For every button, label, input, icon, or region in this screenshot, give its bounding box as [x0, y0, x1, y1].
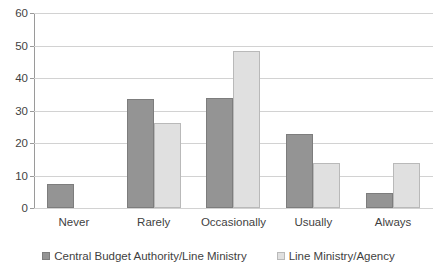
- bars-container: [114, 13, 194, 208]
- bar[interactable]: [127, 99, 154, 208]
- legend-label: Line Ministry/Agency: [289, 250, 395, 262]
- bar-group: [114, 13, 194, 208]
- x-axis-tick-label: Occasionally: [194, 211, 274, 233]
- x-axis-tick-label: Never: [34, 211, 114, 233]
- bar[interactable]: [233, 51, 260, 208]
- bar-group: [194, 13, 274, 208]
- y-axis-tick-label: 30: [2, 104, 28, 118]
- y-axis-tick-label: 20: [2, 136, 28, 150]
- y-axis-tick-label: 50: [2, 39, 28, 53]
- bar-group: [353, 13, 433, 208]
- bar-chart: 0102030405060 NeverRarelyOccasionallyUsu…: [0, 0, 437, 274]
- bar-group: [273, 13, 353, 208]
- x-axis-tick-label: Usually: [273, 211, 353, 233]
- legend-item[interactable]: Line Ministry/Agency: [277, 250, 395, 262]
- y-axis-tick-label: 10: [2, 169, 28, 183]
- legend-swatch-icon: [42, 252, 50, 260]
- bars-container: [353, 13, 433, 208]
- y-tick-mark-0: [30, 208, 34, 209]
- gridline-0: [34, 208, 433, 209]
- bar[interactable]: [393, 163, 420, 208]
- x-axis-tick-label: Rarely: [114, 211, 194, 233]
- bar[interactable]: [206, 98, 233, 209]
- bar[interactable]: [366, 193, 393, 208]
- bars-container: [34, 13, 114, 208]
- bar[interactable]: [286, 134, 313, 208]
- x-axis-tick-labels: NeverRarelyOccasionallyUsuallyAlways: [34, 211, 433, 233]
- x-axis-tick-label: Always: [353, 211, 433, 233]
- bars-container: [194, 13, 274, 208]
- bar[interactable]: [313, 163, 340, 208]
- chart-legend: Central Budget Authority/Line MinistryLi…: [0, 246, 437, 266]
- bar-groups: [34, 13, 433, 208]
- y-axis-tick-label: 60: [2, 6, 28, 20]
- bar[interactable]: [47, 184, 74, 208]
- legend-swatch-icon: [277, 252, 285, 260]
- y-axis-tick-label: 0: [2, 201, 28, 215]
- bar-group: [34, 13, 114, 208]
- bars-container: [273, 13, 353, 208]
- y-axis-tick-label: 40: [2, 71, 28, 85]
- legend-label: Central Budget Authority/Line Ministry: [54, 250, 246, 262]
- bar[interactable]: [154, 123, 181, 208]
- plot-area: 0102030405060: [34, 13, 433, 208]
- legend-item[interactable]: Central Budget Authority/Line Ministry: [42, 250, 246, 262]
